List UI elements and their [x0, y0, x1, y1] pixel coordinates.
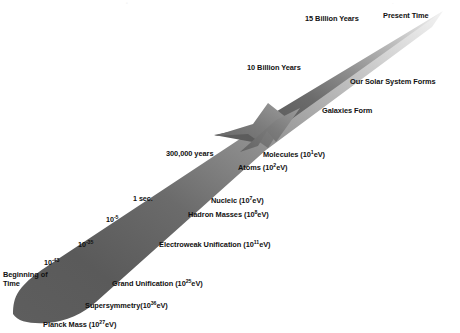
label-grand-unification: Grand Unification (1025eV) — [112, 279, 203, 288]
label-electroweak-unification: Electroweak Unification (1011eV) — [159, 240, 271, 249]
label-molecules-text: Molecules (10 — [263, 150, 311, 159]
label-tick-10-minus-43: 10-43 — [44, 258, 59, 267]
label-supersymmetry-unit: eV) — [156, 301, 167, 310]
label-electroweak-unification-unit: eV) — [259, 240, 270, 249]
label-tick-1-sec: 1 sec. — [133, 194, 153, 203]
label-electroweak-unification-text: Electroweak Unification (10 — [159, 240, 254, 249]
label-galaxies-form: Galaxies Form — [322, 106, 372, 115]
top-edge-artifact-left: ▫ — [126, 0, 128, 6]
label-nucleic-unit: eV) — [252, 196, 263, 205]
label-tick-10-minus-35-base: 10 — [78, 240, 86, 249]
label-15-billion-years: 15 Billion Years — [305, 14, 359, 23]
label-atoms-text: Atoms (10 — [238, 163, 273, 172]
label-tick-10-minus-5: 10-5 — [106, 215, 118, 224]
timeline-arrow-graphic — [0, 0, 460, 333]
label-atoms-unit: eV) — [276, 163, 287, 172]
arrow-body-shape — [13, 11, 443, 323]
label-hadron-masses-unit: eV) — [257, 210, 268, 219]
label-tick-10-minus-35-exponent: -35 — [86, 239, 93, 245]
label-atoms: Atoms (102eV) — [238, 163, 287, 172]
label-molecules: Molecules (101eV) — [263, 150, 325, 159]
label-grand-unification-unit: eV) — [191, 279, 202, 288]
top-edge-artifact-right: · — [392, 0, 394, 6]
label-supersymmetry-text: Supersymmetry(10 — [85, 301, 151, 310]
label-supersymmetry: Supersymmetry(1036eV) — [85, 301, 168, 310]
label-tick-10-minus-5-exponent: -5 — [114, 214, 119, 220]
label-tick-10-minus-5-base: 10 — [106, 215, 114, 224]
label-tick-10-minus-43-exponent: -43 — [52, 257, 59, 263]
label-planck-mass: Planck Mass (1027eV) — [43, 320, 116, 329]
label-grand-unification-text: Grand Unification (10 — [112, 279, 186, 288]
label-nucleic-text: Nucleic (10 — [211, 196, 249, 205]
label-beginning-of-time: Beginning of Time — [3, 270, 55, 289]
label-planck-mass-text: Planck Mass (10 — [43, 320, 99, 329]
label-planck-mass-unit: eV) — [105, 320, 116, 329]
cosmic-timeline-figure: Present Time 15 Billion Years 10 Billion… — [0, 0, 460, 333]
label-present-time: Present Time — [383, 11, 429, 20]
label-hadron-masses: Hadron Masses (108eV) — [188, 210, 269, 219]
label-our-solar-system-forms: Our Solar System Forms — [350, 77, 436, 86]
label-300000-years: 300,000 years — [166, 149, 213, 158]
label-tick-10-minus-43-base: 10 — [44, 258, 52, 267]
label-molecules-unit: eV) — [314, 150, 325, 159]
label-10-billion-years: 10 Billion Years — [247, 63, 301, 72]
label-tick-10-minus-35: 10-35 — [78, 240, 93, 249]
label-hadron-masses-text: Hadron Masses (10 — [188, 210, 255, 219]
label-nucleic: Nucleic (107eV) — [211, 196, 264, 205]
